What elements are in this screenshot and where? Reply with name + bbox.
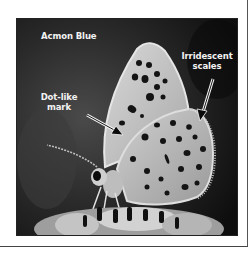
dot-like-mark-label: Dot-like mark xyxy=(37,92,81,112)
dot-like-mark-line2: mark xyxy=(37,102,81,112)
butterfly-photo: Acmon Blue Dot-like mark Irridescent sca… xyxy=(16,18,238,236)
dot-like-mark-line1: Dot-like xyxy=(37,92,81,102)
page-right-rule xyxy=(247,0,248,247)
species-title-text: Acmon Blue xyxy=(41,31,97,41)
irridescent-scales-label: Irridescent scales xyxy=(177,51,237,71)
page-bottom-rule xyxy=(0,246,248,247)
irridescent-scales-line2: scales xyxy=(177,61,237,71)
irridescent-scales-line1: Irridescent xyxy=(177,51,237,61)
species-title-label: Acmon Blue xyxy=(41,31,97,41)
